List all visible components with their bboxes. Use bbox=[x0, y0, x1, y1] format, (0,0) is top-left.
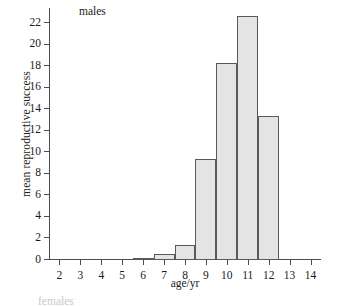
y-tick-label: 2 bbox=[35, 230, 41, 244]
y-tick-label: 10 bbox=[30, 144, 42, 158]
y-axis-line bbox=[49, 8, 50, 260]
x-axis-label: age/yr bbox=[49, 277, 321, 289]
y-tick-label: 22 bbox=[30, 15, 42, 29]
x-tick: 14 bbox=[311, 260, 312, 265]
x-tick: 10 bbox=[227, 260, 228, 265]
x-tick: 4 bbox=[101, 260, 102, 265]
y-tick: 20 bbox=[44, 44, 49, 45]
y-tick-label: 20 bbox=[30, 36, 42, 50]
bar bbox=[258, 116, 279, 260]
bar bbox=[154, 254, 175, 260]
cropped-next-panel-title: females bbox=[38, 295, 74, 306]
x-tick: 12 bbox=[269, 260, 270, 265]
panel-title: males bbox=[79, 5, 106, 17]
y-tick-label: 6 bbox=[35, 187, 41, 201]
y-tick-label: 14 bbox=[30, 101, 42, 115]
y-tick: 6 bbox=[44, 194, 49, 195]
y-tick-label: 8 bbox=[35, 165, 41, 179]
x-tick: 13 bbox=[290, 260, 291, 265]
x-tick: 9 bbox=[206, 260, 207, 265]
y-tick: 16 bbox=[44, 87, 49, 88]
bar bbox=[216, 63, 237, 260]
bar bbox=[195, 159, 216, 260]
x-tick: 6 bbox=[143, 260, 144, 265]
y-tick-label: 18 bbox=[30, 58, 42, 72]
plot-area: 0246810121416182022 234567891011121314 m… bbox=[49, 8, 321, 260]
y-tick: 0 bbox=[44, 259, 49, 260]
bar bbox=[175, 245, 196, 260]
y-tick: 4 bbox=[44, 216, 49, 217]
y-tick: 12 bbox=[44, 130, 49, 131]
y-tick-label: 4 bbox=[35, 208, 41, 222]
y-tick-label: 12 bbox=[30, 122, 42, 136]
x-tick: 8 bbox=[185, 260, 186, 265]
x-tick: 3 bbox=[80, 260, 81, 265]
y-tick-label: 16 bbox=[30, 79, 42, 93]
x-tick: 7 bbox=[164, 260, 165, 265]
x-tick: 2 bbox=[59, 260, 60, 265]
bar bbox=[133, 258, 154, 260]
y-tick: 18 bbox=[44, 65, 49, 66]
chart-figure: mean reproductive success 02468101214161… bbox=[0, 0, 337, 306]
y-tick: 2 bbox=[44, 237, 49, 238]
y-tick: 10 bbox=[44, 151, 49, 152]
x-tick: 11 bbox=[248, 260, 249, 265]
x-tick: 5 bbox=[122, 260, 123, 265]
y-tick: 22 bbox=[44, 22, 49, 23]
bar bbox=[237, 16, 258, 260]
y-tick-label: 0 bbox=[35, 252, 41, 266]
y-tick: 8 bbox=[44, 173, 49, 174]
y-tick: 14 bbox=[44, 108, 49, 109]
